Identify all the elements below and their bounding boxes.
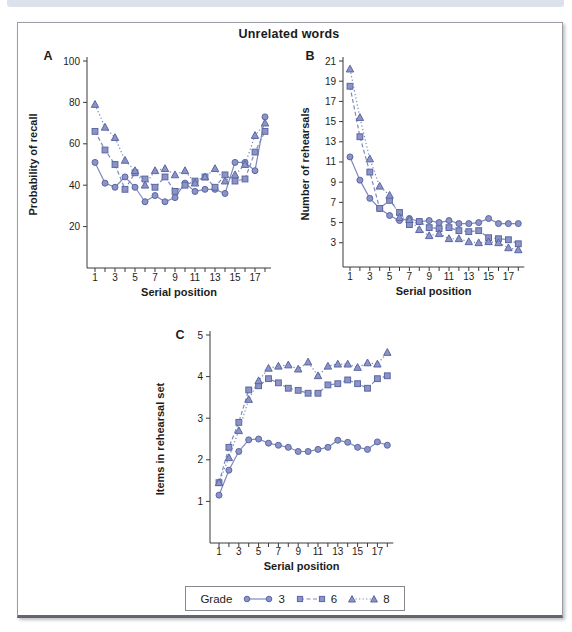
data-point [265,364,272,371]
series-line-grade-3 [95,117,265,202]
data-point [255,377,262,384]
data-point [192,188,198,194]
data-point [357,177,363,183]
data-point [102,147,108,153]
data-point [387,213,393,219]
data-point [181,167,188,174]
data-point [92,159,98,165]
data-point [112,184,118,190]
x-tick-label: 3 [367,271,373,282]
panel-label: C [175,328,184,342]
data-point [367,169,373,175]
x-tick-label: 9 [295,546,301,557]
data-point [456,228,462,234]
x-tick-label: 9 [172,272,178,283]
data-point [466,229,472,235]
data-point [505,244,512,251]
data-point [365,446,371,452]
data-point [172,189,178,195]
data-point [347,83,353,89]
x-tick-label: 1 [216,546,222,557]
x-axis-title: Serial position [264,560,340,572]
top-page-strip [7,0,564,7]
data-point [515,221,521,227]
data-point [384,442,390,448]
data-point [314,372,321,379]
data-point [91,101,98,108]
x-tick-label: 5 [256,546,262,557]
data-point [446,225,452,231]
legend-title: Grade [200,593,232,605]
data-point [375,376,381,382]
data-point [315,446,321,452]
x-tick-label: 5 [387,271,393,282]
data-point [377,206,383,212]
y-tick-label: 21 [325,56,337,67]
data-point [275,442,281,448]
data-point [256,436,262,442]
data-point [347,154,353,160]
data-point [304,358,311,365]
legend: Grade 3 6 8 [185,586,405,611]
x-tick-label: 3 [112,272,118,283]
x-axis-title: Serial position [396,285,472,297]
y-tick-label: 20 [69,221,81,232]
data-point [261,119,268,126]
data-point [426,218,432,224]
x-tick-label: 17 [503,271,515,282]
y-tick-label: 5 [197,330,203,341]
x-tick-label: 9 [426,271,432,282]
data-point [122,174,128,180]
data-point [142,199,148,205]
data-point [212,184,218,190]
x-tick-label: 13 [209,272,221,283]
data-point [455,235,462,242]
data-point [266,440,272,446]
data-point [232,178,238,184]
grade-8-triangle-marker-icon [347,594,379,604]
data-point [171,171,178,178]
data-point [122,186,128,192]
data-point [436,220,442,226]
x-tick-label: 7 [152,272,158,283]
data-point [262,128,268,134]
data-point [216,492,222,498]
x-tick-label: 17 [249,272,261,283]
x-axis-title: Serial position [141,286,217,298]
x-tick-label: 7 [407,271,413,282]
y-tick-label: 5 [330,217,336,228]
data-point [246,387,252,393]
x-tick-label: 1 [92,272,98,283]
data-point [162,199,168,205]
data-point [101,123,108,130]
data-point [202,186,208,192]
data-point [496,221,502,227]
data-point [285,361,292,368]
data-point [266,376,272,382]
data-point [376,182,383,189]
y-tick-label: 17 [325,96,337,107]
data-point [476,228,482,234]
panel-a-chart-recall: 204060801001357911131517Serial positionP… [20,40,292,308]
data-point [315,390,321,396]
y-tick-label: 100 [63,56,80,67]
y-tick-label: 19 [325,76,337,87]
data-point [506,237,512,243]
y-axis-title: Items in rehearsal set [154,382,166,495]
x-tick-label: 11 [444,271,455,282]
x-tick-label: 11 [190,272,201,283]
data-point [367,195,373,201]
legend-label-grade-8: 8 [383,593,389,605]
legend-entry-grade-8: 8 [347,593,389,605]
x-tick-label: 15 [352,546,364,557]
y-tick-label: 80 [69,97,81,108]
data-point [211,165,218,172]
x-tick-label: 13 [332,546,344,557]
panel-label: A [43,49,52,63]
data-point [335,381,341,387]
data-point [226,444,232,450]
data-point [426,225,432,231]
data-point [357,134,363,140]
data-point [252,149,258,155]
y-axis-title: Probability of recall [27,113,39,215]
